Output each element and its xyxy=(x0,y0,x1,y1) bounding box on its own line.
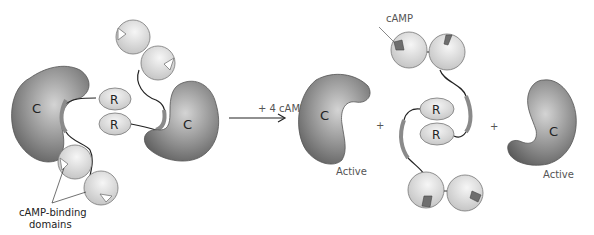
catalytic-label: C xyxy=(32,101,41,116)
regulatory-subunit: R xyxy=(99,88,131,110)
regulatory-label: R xyxy=(432,128,440,142)
reaction-arrow: + 4 cAMP xyxy=(229,103,306,122)
camp-binding-domain xyxy=(391,32,427,68)
camp-binding-domain xyxy=(429,34,465,70)
camp-binding-domain xyxy=(84,171,118,205)
catalytic-label: C xyxy=(183,117,192,132)
pseudosubstrate-segment xyxy=(62,100,67,132)
linker xyxy=(404,109,420,120)
linker xyxy=(454,132,466,137)
active-label: Active xyxy=(543,169,574,180)
camp-binding-domain xyxy=(58,145,92,179)
pseudosubstrate-segment xyxy=(156,110,165,130)
camp-binding-domain xyxy=(141,46,175,80)
regulatory-subunit: R xyxy=(420,98,454,120)
camp-molecule xyxy=(422,196,432,207)
regulatory-label: R xyxy=(110,93,118,107)
regulatory-label: R xyxy=(432,103,440,117)
annotation-line1: cAMP-binding xyxy=(19,207,87,218)
regulatory-dimer-with-camp: cAMP R R xyxy=(379,13,483,211)
regulatory-label: R xyxy=(110,118,118,132)
active-label: Active xyxy=(336,166,367,177)
catalytic-label: C xyxy=(320,108,329,123)
plus-sign: + xyxy=(490,121,498,132)
regulatory-subunit: R xyxy=(99,113,131,135)
plus-sign: + xyxy=(376,120,384,131)
camp-binding-domain xyxy=(447,175,483,211)
camp-binding-domain xyxy=(116,20,150,54)
camp-binding-domain xyxy=(408,172,444,208)
camp-pointer xyxy=(379,27,394,42)
active-catalytic-subunit-left: C Active xyxy=(299,74,370,177)
active-catalytic-subunit-right: C Active xyxy=(508,80,577,180)
linker xyxy=(440,70,466,96)
camp-molecule xyxy=(394,40,404,50)
linker xyxy=(131,124,156,130)
annotation-line2: domains xyxy=(29,219,72,230)
inactive-holoenzyme: C R R xyxy=(12,20,219,230)
regulatory-subunit: R xyxy=(420,123,454,145)
pseudosubstrate-segment xyxy=(466,96,471,132)
catalytic-subunit-right: C xyxy=(144,81,218,161)
pka-activation-diagram: C R R xyxy=(0,0,594,235)
pseudosubstrate-segment xyxy=(401,120,408,158)
camp-label: cAMP xyxy=(386,13,413,24)
linker xyxy=(408,158,424,174)
catalytic-label: C xyxy=(549,124,558,139)
